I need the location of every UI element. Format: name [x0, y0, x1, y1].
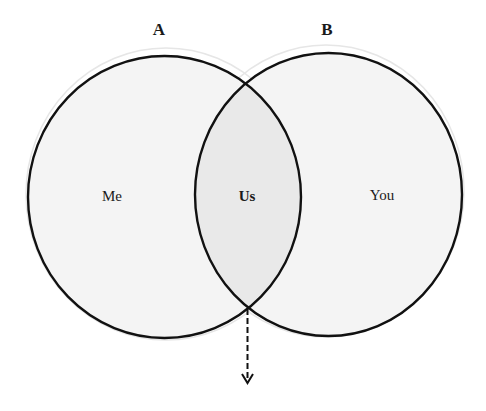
set-label-b: B [321, 20, 332, 39]
region-label-us: Us [239, 188, 256, 204]
venn-diagram: A B Me Us You [0, 0, 486, 411]
region-label-me: Me [102, 188, 122, 204]
dashed-arrow-down-icon [242, 309, 253, 383]
set-label-a: A [153, 20, 166, 39]
region-label-you: You [370, 187, 395, 203]
